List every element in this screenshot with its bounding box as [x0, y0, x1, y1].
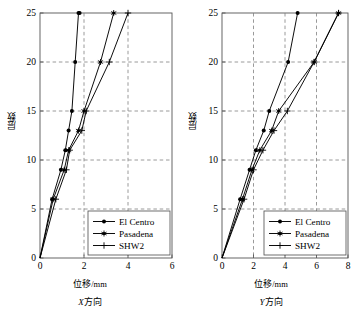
legend-label: El Centro	[119, 217, 155, 227]
legend-label: SHW2	[119, 241, 144, 251]
x-tick-label: 4	[126, 261, 131, 271]
y-tick-label: 20	[17, 57, 36, 67]
y-tick-label: 5	[199, 204, 218, 214]
legend-label: Pasadena	[119, 229, 153, 239]
y-tick-label: 15	[199, 106, 218, 116]
x-axis-unit-right: /mm	[272, 279, 288, 289]
legend-label: El Centro	[295, 217, 331, 227]
y-tick-label: 0	[17, 253, 36, 263]
chart-panel-y-direction: 层数 El CentroPasadenaSHW2 位移/mm Y方向 05101…	[181, 0, 361, 321]
x-tick-label: 8	[346, 261, 351, 271]
x-tick-label: 2	[82, 261, 87, 271]
x-axis-title-text-right: 位移	[254, 279, 272, 289]
x-axis-title-text-left: 位移	[73, 279, 91, 289]
x-tick-label: 0	[220, 261, 225, 271]
y-axis-title-right: 层数	[185, 112, 198, 130]
x-axis-title-left: 位移/mm	[0, 277, 180, 290]
y-tick-label: 25	[199, 8, 218, 18]
panel-caption-right: Y方向	[181, 295, 361, 308]
y-axis-title-left: 层数	[4, 112, 17, 130]
chart-panel-x-direction: 层数 El CentroPasadenaSHW2 位移/mm X方向 05101…	[0, 0, 180, 321]
y-tick-label: 5	[17, 204, 36, 214]
x-tick-label: 0	[38, 261, 43, 271]
figure-root: 层数 El CentroPasadenaSHW2 位移/mm X方向 05101…	[0, 0, 361, 321]
x-axis-unit-left: /mm	[91, 279, 107, 289]
x-axis-title-right: 位移/mm	[181, 277, 361, 290]
x-tick-label: 6	[170, 261, 175, 271]
y-tick-label: 0	[199, 253, 218, 263]
x-tick-label: 2	[251, 261, 256, 271]
x-tick-label: 4	[283, 261, 288, 271]
panel-caption-left: X方向	[0, 295, 180, 308]
y-tick-label: 10	[199, 155, 218, 165]
y-tick-label: 25	[17, 8, 36, 18]
y-tick-label: 20	[199, 57, 218, 67]
x-tick-label: 6	[314, 261, 319, 271]
y-tick-label: 10	[17, 155, 36, 165]
legend-label: SHW2	[295, 241, 320, 251]
panel-caption-suffix-left: 方向	[84, 297, 102, 307]
y-tick-label: 15	[17, 106, 36, 116]
panel-caption-suffix-right: 方向	[265, 297, 283, 307]
legend-label: Pasadena	[295, 229, 329, 239]
